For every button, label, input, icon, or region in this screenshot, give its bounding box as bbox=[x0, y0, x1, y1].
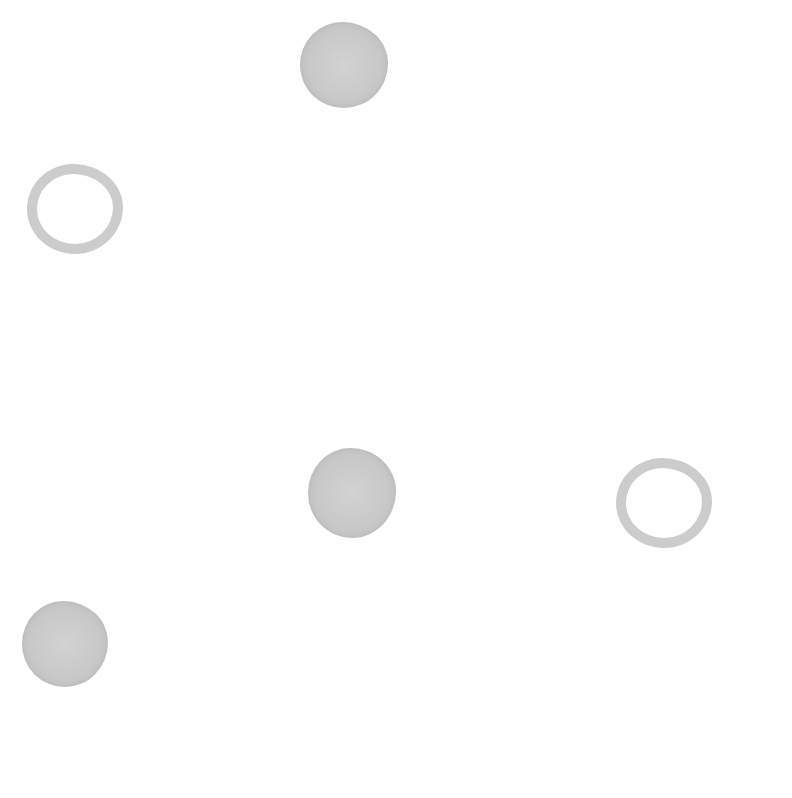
ring-right bbox=[616, 458, 712, 548]
filled-circle-center bbox=[308, 448, 396, 538]
filled-circle-bottom-left bbox=[22, 601, 108, 687]
drawing-canvas bbox=[0, 0, 792, 798]
ring-left bbox=[27, 164, 123, 254]
filled-circle-top bbox=[300, 22, 388, 108]
